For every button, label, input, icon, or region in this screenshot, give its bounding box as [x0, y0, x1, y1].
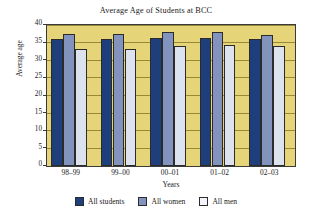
legend-label: All women: [151, 197, 185, 206]
y-tick-label: 30: [26, 56, 42, 63]
y-tick-label: 20: [26, 91, 42, 98]
x-tick-label: 01–02: [195, 168, 245, 177]
y-tick-mark: [43, 165, 47, 166]
legend-label: All students: [88, 197, 125, 206]
y-tick-label: 35: [26, 38, 42, 45]
bar-group: [200, 25, 236, 166]
bar: [174, 46, 186, 166]
y-tick-label: 40: [26, 20, 42, 27]
x-tick-label: 99–00: [96, 168, 146, 177]
y-tick-mark: [43, 130, 47, 131]
bar: [101, 39, 113, 166]
bar: [150, 38, 162, 166]
bar: [75, 49, 87, 166]
legend-swatch-icon: [75, 197, 84, 206]
legend-swatch-icon: [199, 197, 208, 206]
bar: [125, 49, 137, 166]
y-tick-mark: [43, 24, 47, 25]
y-tick-label: 15: [26, 109, 42, 116]
legend-swatch-icon: [138, 197, 147, 206]
y-tick-mark: [43, 59, 47, 60]
y-tick-mark: [43, 77, 47, 78]
bar: [273, 46, 285, 166]
y-axis-tick-labels: 0510152025303540: [24, 24, 42, 165]
bar-group: [150, 25, 186, 166]
y-tick-mark: [43, 42, 47, 43]
bar-group: [249, 25, 285, 166]
y-tick-mark: [43, 112, 47, 113]
chart-title: Average Age of Students at BCC: [0, 6, 312, 15]
y-tick-mark: [43, 147, 47, 148]
chart-figure: Average Age of Students at BCC Average a…: [0, 0, 312, 221]
bar: [51, 39, 63, 166]
bar: [200, 38, 212, 166]
bar: [224, 45, 236, 166]
y-tick-label: 10: [26, 126, 42, 133]
y-tick-mark: [43, 95, 47, 96]
legend-label: All men: [212, 197, 237, 206]
legend-item[interactable]: All students: [75, 197, 125, 206]
bar: [63, 34, 75, 166]
x-tick-label: 98–99: [46, 168, 96, 177]
bar-group: [101, 25, 137, 166]
x-tick-label: 02–03: [244, 168, 294, 177]
bar: [212, 32, 224, 166]
y-axis-title: Average age: [15, 22, 24, 96]
plot-area: [46, 24, 296, 167]
chart-legend: All studentsAll womenAll men: [0, 197, 312, 206]
legend-item[interactable]: All women: [138, 197, 185, 206]
bar: [261, 35, 273, 166]
x-tick-label: 00–01: [145, 168, 195, 177]
legend-item[interactable]: All men: [199, 197, 237, 206]
x-axis-tick-labels: 98–9999–0000–0101–0202–03: [46, 168, 296, 180]
x-axis-title: Years: [46, 180, 296, 189]
y-tick-label: 25: [26, 73, 42, 80]
y-tick-label: 0: [26, 161, 42, 168]
bar: [113, 34, 125, 166]
bar: [249, 39, 261, 166]
y-tick-label: 5: [26, 144, 42, 151]
bar: [162, 32, 174, 166]
bar-group: [51, 25, 87, 166]
